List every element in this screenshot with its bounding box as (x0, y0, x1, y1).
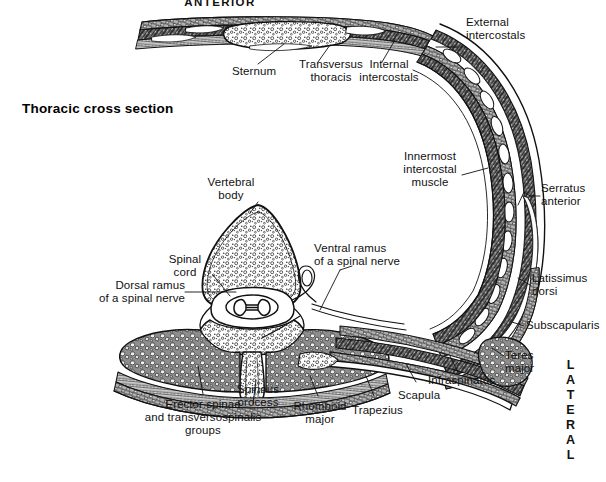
orientation-label-anterior: ANTERIOR (160, 0, 280, 8)
label-innermost-intercostal-muscle: Innermost intercostal muscle (392, 150, 468, 189)
label-latissimus-dorsi: Latissimus dorsi (532, 272, 600, 298)
label-ventral-ramus: Ventral ramus of a spinal nerve (314, 242, 414, 268)
lateral-letter: A (566, 373, 575, 388)
label-external-intercostals: External intercostals (466, 16, 546, 42)
lateral-letter: L (566, 358, 575, 373)
label-serratus-anterior: Serratus anterior (541, 182, 603, 208)
page-title: Thoracic cross section (22, 101, 173, 116)
label-subscapularis: Subscapularis (526, 319, 606, 332)
orientation-label-lateral: L A T E R A L (566, 358, 575, 463)
lateral-letter: L (566, 448, 575, 463)
lateral-letter: R (566, 418, 575, 433)
label-erector-spinae-group: Erector spinae and transversospinalis gr… (88, 398, 318, 437)
lateral-letter: E (566, 403, 575, 418)
label-internal-intercostals: Internal intercostals (355, 58, 423, 84)
thoracic-wall-arc (413, 24, 545, 389)
label-sternum: Sternum (219, 65, 289, 78)
label-vertebral-body: Vertebral body (200, 176, 262, 202)
figure-canvas: ANTERIOR Thoracic cross section Sternum … (0, 0, 606, 482)
label-teres-major: Teres major (505, 349, 559, 375)
label-infraspinatus: Infraspinatus (428, 374, 508, 387)
label-dorsal-ramus: Dorsal ramus of a spinal nerve (75, 279, 185, 305)
lateral-letter: T (566, 388, 575, 403)
label-trapezius: Trapezius (352, 404, 414, 417)
label-spinal-cord: Spinal cord (156, 253, 214, 279)
lateral-letter: A (566, 433, 575, 448)
label-scapula: Scapula (398, 389, 452, 402)
